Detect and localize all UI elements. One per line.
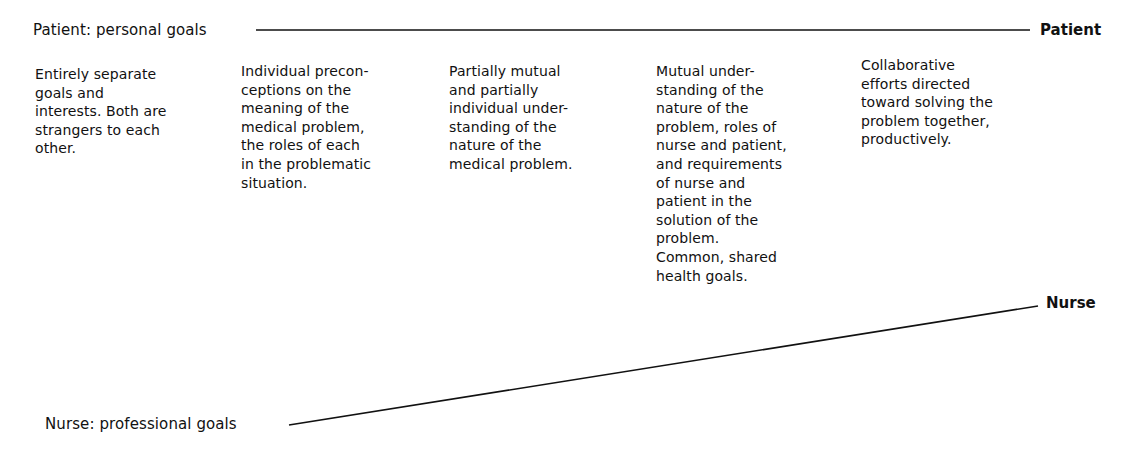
stage-1-line: goals and (35, 84, 166, 103)
stage-1-line: Entirely separate (35, 65, 166, 84)
stage-2-line: ceptions on the (241, 81, 371, 100)
stage-3-description: Partially mutual and partially individua… (449, 62, 573, 174)
stage-3-line: individual under- (449, 99, 573, 118)
stage-2-line: in the problematic (241, 155, 371, 174)
nurse-end-label: Nurse (1046, 294, 1096, 312)
stage-3-line: Partially mutual (449, 62, 573, 81)
stage-5-line: Collaborative (861, 56, 993, 75)
stage-4-line: of nurse and (656, 174, 787, 193)
stage-5-line: efforts directed (861, 75, 993, 94)
stage-4-line: nature of the (656, 99, 787, 118)
stage-5-description: Collaborative efforts directed toward so… (861, 56, 993, 149)
patient-end-label: Patient (1040, 21, 1101, 39)
stage-4-line: Mutual under- (656, 62, 787, 81)
stage-4-line: standing of the (656, 81, 787, 100)
stage-4-line: problem, roles of (656, 118, 787, 137)
stage-4-description: Mutual under- standing of the nature of … (656, 62, 787, 285)
stage-1-line: other. (35, 139, 166, 158)
nurse-start-label: Nurse: professional goals (45, 415, 237, 433)
patient-start-label: Patient: personal goals (33, 21, 207, 39)
stage-4-line: solution of the (656, 211, 787, 230)
stage-5-line: productively. (861, 130, 993, 149)
stage-4-line: problem. (656, 229, 787, 248)
stage-5-line: problem together, (861, 112, 993, 131)
stage-1-line: strangers to each (35, 121, 166, 140)
stage-3-line: standing of the (449, 118, 573, 137)
stage-4-line: health goals. (656, 267, 787, 286)
stage-4-line: and requirements (656, 155, 787, 174)
stage-2-line: the roles of each (241, 136, 371, 155)
nurse-goal-line (289, 306, 1038, 425)
stage-1-description: Entirely separate goals and interests. B… (35, 65, 166, 158)
stage-2-line: medical problem, (241, 118, 371, 137)
stage-4-line: nurse and patient, (656, 136, 787, 155)
stage-4-line: patient in the (656, 192, 787, 211)
stage-2-line: situation. (241, 174, 371, 193)
stage-3-line: and partially (449, 81, 573, 100)
stage-2-line: meaning of the (241, 99, 371, 118)
stage-1-line: interests. Both are (35, 102, 166, 121)
stage-2-line: Individual precon- (241, 62, 371, 81)
stage-3-line: medical problem. (449, 155, 573, 174)
stage-2-description: Individual precon- ceptions on the meani… (241, 62, 371, 192)
stage-4-line: Common, shared (656, 248, 787, 267)
stage-3-line: nature of the (449, 136, 573, 155)
stage-5-line: toward solving the (861, 93, 993, 112)
